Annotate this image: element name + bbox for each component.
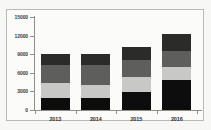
bar-segment[interactable] — [41, 83, 70, 97]
bar-segment[interactable] — [41, 54, 70, 65]
y-axis-tick-label: 9000 — [17, 52, 28, 57]
bar-segment[interactable] — [122, 92, 151, 110]
x-axis-tick — [197, 110, 198, 114]
y-axis-tick-label: 3000 — [17, 89, 28, 94]
x-axis-tick — [35, 110, 36, 114]
x-axis-category-label: 2014 — [90, 116, 102, 122]
bar-segment[interactable] — [41, 65, 70, 84]
bar-group[interactable] — [122, 47, 151, 110]
bar-segment[interactable] — [122, 77, 151, 93]
y-axis-tick-label: 15000 — [15, 15, 28, 20]
bar-segment[interactable] — [81, 54, 110, 65]
y-axis-tick-label: 6000 — [17, 70, 28, 75]
x-axis-tick — [116, 110, 117, 114]
y-axis-tick-label: 12000 — [15, 33, 28, 38]
x-axis-line — [34, 110, 202, 111]
bar-group[interactable] — [81, 54, 110, 110]
bar-segment[interactable] — [122, 47, 151, 59]
bar-segment[interactable] — [162, 80, 191, 110]
plot-area — [35, 17, 197, 110]
bar-segment[interactable] — [162, 51, 191, 68]
chart-container: 03000600090001200015000 2013201420152016 — [0, 0, 211, 130]
x-axis-category-label: 2016 — [171, 116, 183, 122]
bar-segment[interactable] — [162, 67, 191, 79]
y-axis-tick-label: 0 — [25, 108, 28, 113]
bar-segment[interactable] — [81, 85, 110, 98]
x-axis-category-label: 2015 — [130, 116, 142, 122]
bar-segment[interactable] — [81, 65, 110, 85]
bar-segment[interactable] — [81, 98, 110, 110]
x-axis-category-label: 2013 — [49, 116, 61, 122]
bar-segment[interactable] — [41, 98, 70, 110]
x-axis-tick — [157, 110, 158, 114]
x-axis-tick — [76, 110, 77, 114]
bar-segment[interactable] — [122, 60, 151, 77]
bar-segment[interactable] — [162, 34, 191, 50]
bar-group[interactable] — [41, 54, 70, 110]
bar-group[interactable] — [162, 34, 191, 110]
